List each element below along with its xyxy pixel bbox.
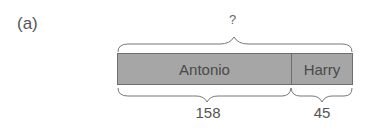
value-antonio: 158 bbox=[188, 104, 228, 121]
bottom-brace-antonio bbox=[118, 88, 291, 102]
top-brace bbox=[118, 37, 352, 52]
segment-label-antonio: Antonio bbox=[179, 61, 230, 78]
bottom-brace-harry bbox=[291, 88, 352, 102]
segment-label-harry: Harry bbox=[304, 61, 341, 78]
value-harry: 45 bbox=[302, 104, 342, 121]
bar-segment-harry: Harry bbox=[291, 53, 353, 85]
bar-segment-antonio: Antonio bbox=[117, 53, 292, 85]
